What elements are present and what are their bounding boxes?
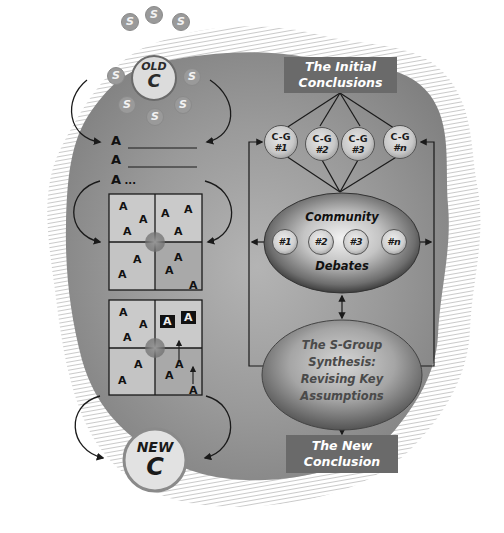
assumption-letter: A bbox=[165, 369, 174, 382]
assumption-letter: A bbox=[139, 318, 148, 331]
community-debates-subtitle: Debates bbox=[282, 259, 402, 273]
conclusion-group-label: C-G bbox=[306, 133, 338, 144]
assumption-ellipsis: ... bbox=[121, 175, 136, 186]
s-group-dot: S bbox=[145, 6, 163, 24]
conclusion-group-number: #2 bbox=[306, 144, 338, 155]
diagram-canvas: S S S S S S S S OLD C A A A ... A A A A … bbox=[0, 0, 504, 533]
initial-conclusions-line1: The Initial bbox=[284, 59, 397, 75]
initial-conclusions-box: The Initial Conclusions bbox=[284, 57, 397, 93]
old-c-label-bottom: C bbox=[132, 70, 176, 91]
assumption-letter: A bbox=[184, 203, 193, 216]
s-group-dot: S bbox=[121, 13, 139, 31]
assumption-letter: A bbox=[133, 253, 142, 266]
s-group-dot: S bbox=[118, 96, 136, 114]
assumption-letter: A bbox=[175, 358, 184, 371]
synthesis-line2: Synthesis: bbox=[272, 354, 412, 371]
s-group-dot: S bbox=[172, 13, 190, 31]
new-conclusion-line2: Conclusion bbox=[286, 454, 398, 470]
synthesis-line3: Revising Key bbox=[272, 371, 412, 388]
assumption-letter: A bbox=[111, 172, 121, 187]
debate-2: #2 bbox=[308, 229, 334, 255]
s-group-dot: S bbox=[183, 68, 201, 86]
debate-1: #1 bbox=[272, 229, 298, 255]
synthesis-label: The S-Group Synthesis: Revising Key Assu… bbox=[272, 337, 412, 405]
assumption-letter: A bbox=[189, 279, 198, 292]
conclusion-group-number: #3 bbox=[342, 144, 374, 155]
assumption-letter: A bbox=[123, 331, 132, 344]
new-conclusion-box: The New Conclusion bbox=[286, 435, 398, 473]
synthesis-line4: Assumptions bbox=[272, 388, 412, 405]
synthesis-line1: The S-Group bbox=[272, 337, 412, 354]
highlighted-assumption: A bbox=[160, 315, 175, 328]
new-c-label-bottom: C bbox=[128, 453, 182, 481]
conclusion-group-number: #n bbox=[384, 142, 416, 153]
assumption-letter: A bbox=[123, 225, 132, 238]
assumption-letter: A bbox=[119, 306, 128, 319]
assumption-letter: A bbox=[134, 358, 143, 371]
assumption-letter: A bbox=[174, 225, 183, 238]
debate-n: #n bbox=[381, 229, 407, 255]
assumption-list-item: A bbox=[111, 133, 121, 148]
s-group-dot: S bbox=[174, 96, 192, 114]
highlighted-assumption: A bbox=[181, 311, 196, 324]
conclusion-group-label: C-G bbox=[342, 133, 374, 144]
assumption-letter: A bbox=[161, 207, 170, 220]
assumption-letter: A bbox=[189, 384, 198, 397]
assumption-letter: A bbox=[139, 213, 148, 226]
conclusion-group-2: C-G #2 bbox=[305, 127, 339, 161]
conclusion-group-number: #1 bbox=[265, 142, 297, 153]
s-group-dot: S bbox=[146, 108, 164, 126]
diagram-background bbox=[0, 0, 504, 533]
community-debates-title: Community bbox=[282, 210, 402, 224]
conclusion-group-label: C-G bbox=[384, 131, 416, 142]
conclusion-group-1: C-G #1 bbox=[264, 125, 298, 159]
assumption-letter: A bbox=[118, 268, 127, 281]
new-conclusion-line1: The New bbox=[286, 438, 398, 454]
assumption-letter: A bbox=[174, 251, 183, 264]
assumption-letter: A bbox=[119, 200, 128, 213]
conclusion-group-label: C-G bbox=[265, 131, 297, 142]
debate-3: #3 bbox=[343, 229, 369, 255]
assumption-list-item: A ... bbox=[111, 172, 136, 187]
s-group-dot: S bbox=[107, 67, 125, 85]
conclusion-group-3: C-G #3 bbox=[341, 127, 375, 161]
assumption-letter: A bbox=[118, 374, 127, 387]
conclusion-group-n: C-G #n bbox=[383, 125, 417, 159]
initial-conclusions-line2: Conclusions bbox=[284, 75, 397, 91]
assumption-list-item: A bbox=[111, 152, 121, 167]
assumption-letter: A bbox=[165, 264, 174, 277]
